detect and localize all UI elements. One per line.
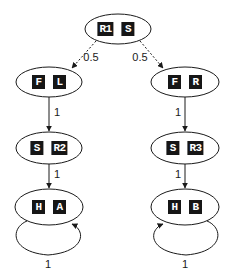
node-fl-labels: F L xyxy=(32,75,66,89)
node-fr-tag-2: R xyxy=(189,75,202,89)
node-fl-tag-2: L xyxy=(53,75,66,89)
node-ha-labels: H A xyxy=(32,200,66,214)
node-ha-tag-1: H xyxy=(32,200,45,214)
node-fl-tag-1: F xyxy=(32,75,45,89)
node-sr3-tag-2: R3 xyxy=(187,141,203,155)
node-start-tag-1: R1 xyxy=(97,22,113,36)
edge-label-sr3-hb: 1 xyxy=(175,168,181,180)
node-ha-tag-2: A xyxy=(53,200,66,214)
node-hb-tag-1: H xyxy=(168,200,181,214)
edge-hb-self-loop xyxy=(154,221,218,255)
edge-label-sr2-ha: 1 xyxy=(54,168,60,180)
node-hb-labels: H B xyxy=(168,200,202,214)
edge-label-hb-loop: 1 xyxy=(182,258,188,270)
edge-label-start-fr: 0.5 xyxy=(132,51,147,63)
node-start-labels: R1 S xyxy=(97,22,134,36)
node-sr3-tag-1: S xyxy=(166,141,179,155)
node-fr-labels: F R xyxy=(168,75,202,89)
edge-label-start-fl: 0.5 xyxy=(83,51,98,63)
markov-chain-diagram xyxy=(0,0,230,278)
node-sr2-tag-1: S xyxy=(30,141,43,155)
node-fr-tag-1: F xyxy=(168,75,181,89)
node-sr2-labels: S R2 xyxy=(30,141,67,155)
edge-label-ha-loop: 1 xyxy=(45,258,51,270)
node-sr3-labels: S R3 xyxy=(166,141,203,155)
edge-ha-self-loop xyxy=(16,221,80,255)
node-sr2-tag-2: R2 xyxy=(51,141,67,155)
edge-label-fr-sr3: 1 xyxy=(175,106,181,118)
node-hb-tag-2: B xyxy=(189,200,202,214)
edge-label-fl-sr2: 1 xyxy=(54,106,60,118)
node-start-tag-2: S xyxy=(122,22,135,36)
